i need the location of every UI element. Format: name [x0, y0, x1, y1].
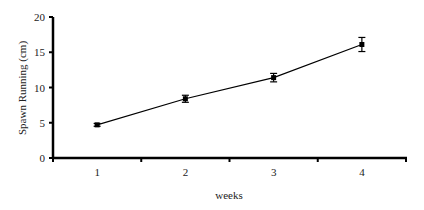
data-series: [94, 37, 366, 127]
data-point-marker: [359, 42, 364, 47]
y-tick-label: 5: [40, 117, 46, 129]
x-tick-label: 2: [183, 166, 189, 178]
data-point-marker: [183, 96, 188, 101]
data-point-marker: [95, 122, 100, 127]
line-chart: 05101520 1234 Spawn Running (cm) weeks: [0, 0, 424, 210]
x-tick-label: 4: [359, 166, 365, 178]
y-axis: 05101520: [34, 11, 53, 164]
y-axis-title: Spawn Running (cm): [16, 41, 29, 135]
x-axis-title: weeks: [215, 189, 243, 201]
data-point-marker: [271, 75, 276, 80]
series-line: [97, 44, 362, 124]
x-tick-label: 3: [271, 166, 277, 178]
y-tick-label: 20: [34, 11, 46, 23]
x-tick-label: 1: [94, 166, 100, 178]
y-tick-label: 0: [40, 152, 46, 164]
y-tick-label: 10: [34, 82, 46, 94]
y-tick-label: 15: [34, 46, 46, 58]
x-axis: 1234: [52, 158, 407, 178]
